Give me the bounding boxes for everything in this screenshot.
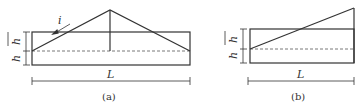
caption-a: (a) [102,91,116,102]
rect-a [32,32,190,65]
height-label-top-a: h [10,38,23,45]
length-label-b: L [296,68,304,81]
height-label-bottom-b: h [227,52,240,59]
caption-b: (b) [291,91,305,102]
rect-b [250,29,354,63]
slope-label-a: i [58,14,62,27]
height-label-top-b: h [227,36,240,43]
height-label-bottom-a: h [10,55,23,62]
figure-b [225,8,354,85]
length-label-a: L [106,68,114,81]
diagram-canvas: h h i L (a) h h L (b) [0,0,364,109]
figure-a [8,10,190,85]
